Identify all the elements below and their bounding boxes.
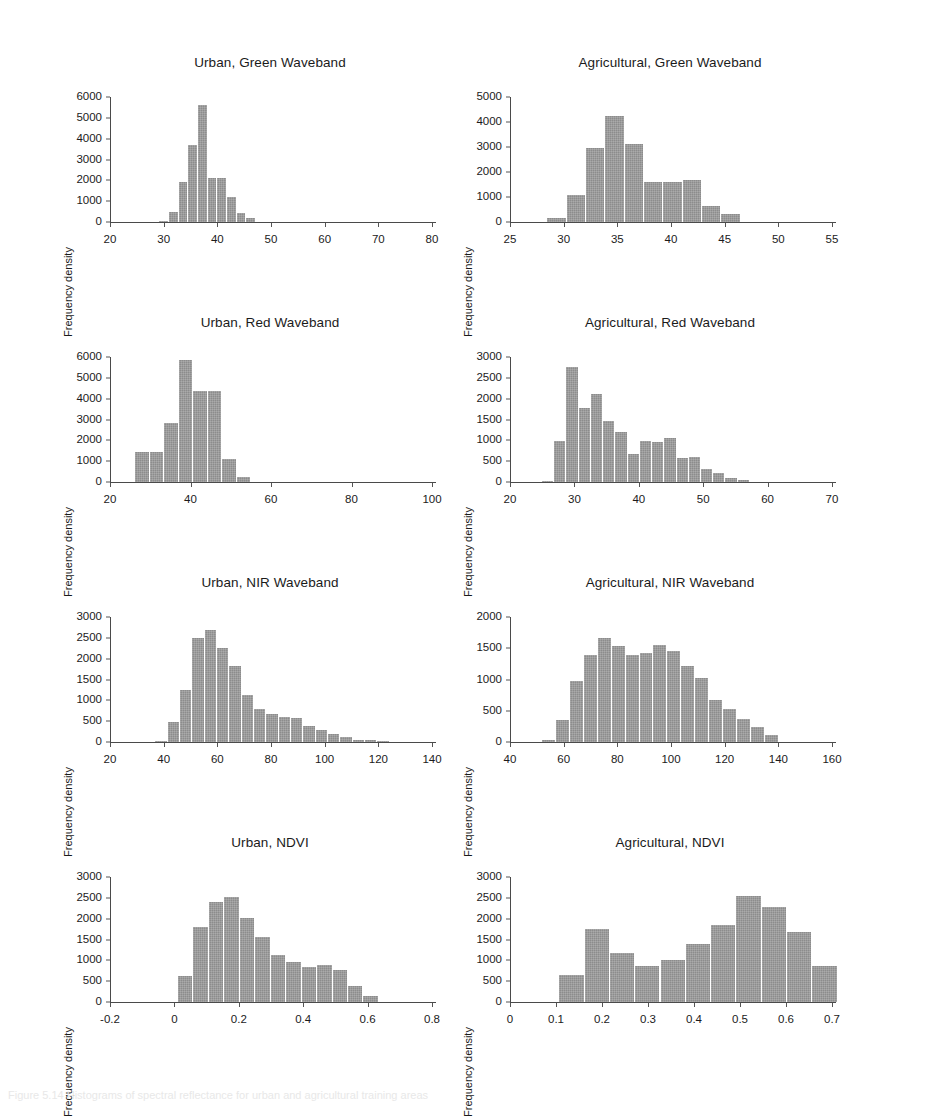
x-axis-tick-mark [378,223,379,227]
x-axis-tick-mark [217,743,218,747]
x-axis-tick-label: 60 [318,234,331,246]
y-axis-tick-label: 2000 [60,175,102,187]
y-axis-tick-label: 0 [460,996,502,1008]
x-axis-line [510,482,836,483]
y-axis-tick-label: 2000 [460,393,502,405]
plot-area: Frequency density05001000150020002500300… [460,865,880,1050]
histogram-bar [590,394,602,482]
x-axis-tick-label: 0 [507,1014,513,1026]
histogram-bar [376,741,388,742]
histogram-bar [192,927,207,1002]
chart-title: Agricultural, NDVI [460,835,880,850]
histogram-bar [245,218,255,222]
y-axis-tick-label: 2500 [60,892,102,904]
x-axis-line [110,482,436,483]
histogram-bar [688,457,700,482]
x-axis-tick-mark [639,483,640,487]
histogram-bar [216,648,228,742]
histogram-bar [660,960,685,1002]
histogram-bar [710,925,735,1002]
x-axis-tick-mark [574,483,575,487]
x-axis-tick-label: 50 [697,494,710,506]
x-axis-tick-mark [786,1003,787,1007]
x-axis-tick-label: 80 [345,494,358,506]
y-axis-tick-label: 3000 [60,611,102,623]
histogram-bar [207,391,221,482]
y-axis-label: Frequency density [462,1002,476,1120]
chart-title: Urban, NDVI [60,835,480,850]
y-axis-tick-label: 0 [60,476,102,488]
histogram-bar [254,937,269,1002]
y-axis-tick-label: 0 [460,736,502,748]
histogram-bar [558,975,583,1002]
x-axis-tick-mark [432,743,433,747]
x-axis-tick-label: 120 [369,754,388,766]
x-axis-tick-mark [352,483,353,487]
y-axis-tick-label: 1500 [60,934,102,946]
histogram-bar [223,897,238,1002]
histogram-bar [546,218,565,223]
x-axis-tick-label: 40 [665,234,678,246]
y-axis-tick-label: 500 [460,705,502,717]
x-axis-tick-label: 50 [772,234,785,246]
x-axis-tick-mark [694,1003,695,1007]
histogram-bar [750,727,764,742]
x-axis-line [510,742,836,743]
histogram-bar [204,630,216,743]
x-axis-tick-mark [432,1003,433,1007]
histogram-bar [347,986,362,1002]
y-axis-tick-label: 1000 [460,674,502,686]
chart-title: Agricultural, Red Waveband [460,315,880,330]
x-axis-tick-label: 70 [826,494,839,506]
y-axis-tick-label: 2500 [460,372,502,384]
y-axis-tick-label: 4000 [460,116,502,128]
x-axis-tick-label: 80 [265,754,278,766]
x-axis-line [510,1002,836,1003]
x-axis-tick-label: 30 [157,234,170,246]
histogram-bar [285,962,300,1002]
chart-title: Agricultural, NIR Waveband [460,575,880,590]
x-axis-tick-mark [564,743,565,747]
x-axis-tick-mark [725,743,726,747]
x-axis-tick-label: 0.1 [548,1014,564,1026]
histogram-bar [724,478,736,482]
x-axis-tick-mark [271,223,272,227]
y-axis-tick-label: 2000 [460,611,502,623]
y-axis-tick-label: 1500 [60,674,102,686]
histogram-bar [315,730,327,742]
chart-panel: Urban, Green WavebandFrequency density01… [60,55,480,270]
histogram-bar [614,432,626,482]
x-axis-tick-label: 25 [504,234,517,246]
x-axis-tick-label: 0.6 [778,1014,794,1026]
histogram-bar [302,726,314,742]
histogram-bar [634,966,659,1002]
x-axis-tick-label: 100 [661,754,680,766]
x-axis-line [510,222,836,223]
histogram-bar [685,944,710,1002]
histogram-bar [134,452,148,482]
x-axis-tick-mark [556,1003,557,1007]
histogram-bar [290,718,302,742]
histogram-bar [541,740,555,742]
histogram-bar [228,666,240,742]
x-axis-tick-label: 0.2 [594,1014,610,1026]
histogram-bar [604,116,623,222]
histogram-bar [651,442,663,482]
histogram-bar [643,182,662,222]
x-axis-tick-mark [671,223,672,227]
histogram-bar [265,714,277,742]
histogram-bar [221,459,235,482]
plot-area: Frequency density05001000150020002500300… [460,345,880,530]
x-axis-tick-mark [368,1003,369,1007]
chart-title: Agricultural, Green Waveband [460,55,880,70]
histogram-bar [197,105,207,222]
y-axis-tick-label: 1000 [60,695,102,707]
y-axis-tick-label: 5000 [60,112,102,124]
x-axis-tick-label: 60 [557,754,570,766]
x-axis-tick-label: 0.6 [360,1014,376,1026]
y-axis-tick-label: 2000 [60,653,102,665]
histogram-bar [627,454,639,482]
y-axis-tick-label: 0 [460,216,502,228]
x-axis-tick-label: 35 [611,234,624,246]
histogram-bar [676,458,688,482]
